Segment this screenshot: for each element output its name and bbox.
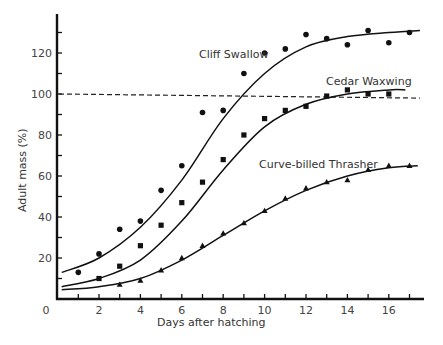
point-cedar-waxwing (366, 91, 371, 96)
point-cliff-swallow (200, 110, 206, 116)
growth-chart: 024681012141620406080100120 0 Days after… (0, 0, 443, 345)
x-tick-label: 16 (382, 304, 396, 317)
point-cliff-swallow (117, 227, 123, 233)
point-curve-billed-thrasher (282, 195, 288, 200)
point-cedar-waxwing (159, 223, 164, 228)
point-cedar-waxwing (200, 180, 205, 185)
y-tick-label: 20 (38, 252, 52, 265)
x-tick-label: 4 (137, 304, 144, 317)
point-cedar-waxwing (262, 116, 267, 121)
point-cedar-waxwing (117, 264, 122, 269)
y-axis-title: Adult mass (%) (16, 128, 29, 212)
x-axis-title: Days after hatching (157, 316, 266, 329)
point-cedar-waxwing (221, 157, 226, 162)
y-tick-label: 100 (31, 88, 52, 101)
fit-curve-cliff-swallow (62, 31, 420, 273)
point-cliff-swallow (220, 108, 226, 114)
x-tick-label: 12 (299, 304, 313, 317)
point-cedar-waxwing (138, 243, 143, 248)
point-cliff-swallow (365, 28, 371, 34)
label-curve-billed-thrasher: Curve-billed Thrasher (259, 158, 378, 171)
point-cliff-swallow (386, 40, 392, 46)
point-curve-billed-thrasher (303, 185, 309, 190)
point-curve-billed-thrasher (200, 243, 206, 248)
y-tick-label: 60 (38, 170, 52, 183)
point-cliff-swallow (241, 71, 247, 77)
point-cedar-waxwing (386, 91, 391, 96)
point-curve-billed-thrasher (386, 163, 392, 168)
point-cedar-waxwing (179, 200, 184, 205)
point-cliff-swallow (345, 42, 351, 48)
point-cedar-waxwing (241, 132, 246, 137)
y-tick-label: 80 (38, 129, 52, 142)
x-tick-label: 0 (43, 304, 50, 317)
point-curve-billed-thrasher (241, 220, 247, 225)
x-tick-label: 2 (96, 304, 103, 317)
y-tick-label: 40 (38, 211, 52, 224)
label-cliff-swallow: Cliff Swallow (199, 48, 268, 61)
fit-curve-cedar-waxwing (62, 90, 406, 287)
point-cliff-swallow (179, 163, 185, 169)
point-curve-billed-thrasher (407, 163, 413, 168)
point-cedar-waxwing (283, 108, 288, 113)
point-cedar-waxwing (324, 93, 329, 98)
label-cedar-waxwing: Cedar Waxwing (326, 75, 412, 88)
y-tick-label: 120 (31, 47, 52, 60)
point-cedar-waxwing (345, 87, 350, 92)
point-cliff-swallow (407, 30, 413, 36)
point-curve-billed-thrasher (179, 255, 185, 260)
point-cliff-swallow (303, 32, 309, 38)
point-cliff-swallow (76, 270, 82, 276)
point-cliff-swallow (324, 36, 330, 42)
point-cliff-swallow (138, 218, 144, 224)
point-cedar-waxwing (303, 104, 308, 109)
point-curve-billed-thrasher (344, 177, 350, 182)
point-cliff-swallow (96, 251, 102, 257)
point-curve-billed-thrasher (220, 230, 226, 235)
x-tick-label: 14 (340, 304, 354, 317)
point-cliff-swallow (158, 188, 164, 194)
point-cliff-swallow (283, 46, 289, 52)
fit-curve-curve-billed-thrasher (62, 166, 418, 290)
point-cedar-waxwing (96, 276, 101, 281)
